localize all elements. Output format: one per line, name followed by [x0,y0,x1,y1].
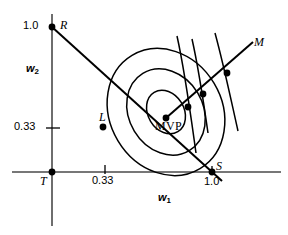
diagram-svg [0,0,288,235]
point-L[interactable] [100,124,107,131]
x-tick-label-033: 0.33 [92,175,113,186]
tangent-line-3 [215,33,238,131]
point-label-R: R [60,19,67,31]
tangent-line-2 [192,39,208,133]
tangency-point-3[interactable] [224,70,231,77]
point-label-S: S [216,160,222,172]
axis-lines [12,14,281,226]
tangency-point-2[interactable] [200,91,207,98]
x-tick-label-10: 1.0 [204,176,219,187]
y-axis-label: w2 [26,63,39,76]
y-tick-label-10: 1.0 [23,20,38,31]
y-tick-label-033: 0.33 [14,121,35,132]
tangent-lines [177,33,238,153]
point-R[interactable] [49,24,56,31]
figure-canvas: 1.0 0.33 0.33 1.0 w2 w1 R T L S MVP M [0,0,288,235]
ray-label-M: M [254,36,264,48]
x-axis-label-text: w [158,191,167,203]
point-label-L: L [99,111,106,123]
y-axis-label-text: w [26,62,35,74]
line-R-to-S [52,27,222,181]
x-axis-label-subscript: 1 [167,196,171,205]
point-T[interactable] [49,169,56,176]
y-axis-label-subscript: 2 [35,67,39,76]
point-label-T: T [40,175,47,187]
x-axis-label: w1 [158,192,171,205]
point-label-MVP: MVP [155,120,182,132]
tangency-point-1[interactable] [185,104,192,111]
